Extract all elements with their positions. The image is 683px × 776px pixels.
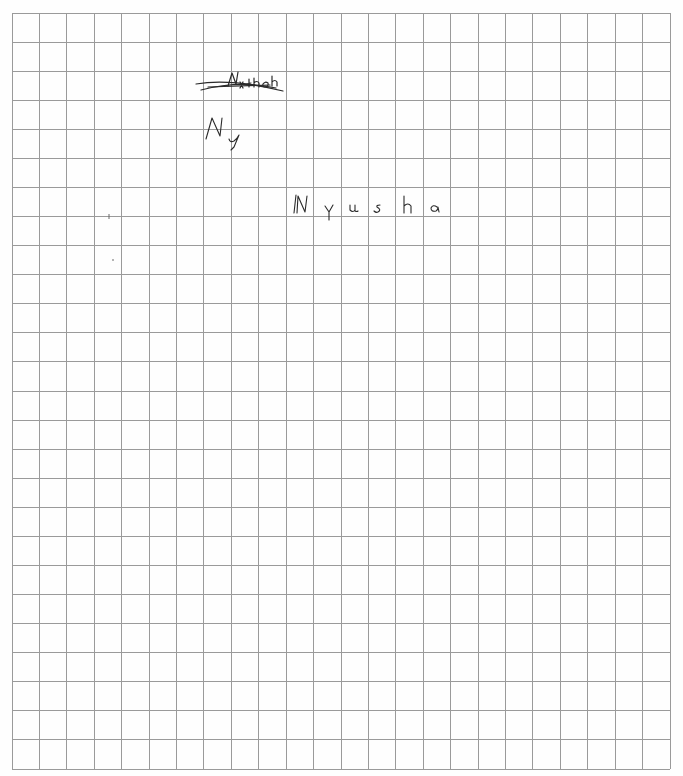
partial-word [206,118,239,150]
crossed-out-word [196,72,283,91]
graph-paper-sheet: Nyshah Ny Nyusha [0,0,683,776]
stray-pen-marks [109,214,113,261]
main-word [294,195,439,220]
